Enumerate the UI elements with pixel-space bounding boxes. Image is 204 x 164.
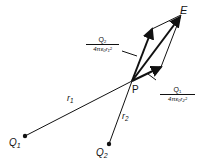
field-diagram [0, 0, 204, 164]
numerator: Q₂ [98, 36, 106, 44]
line-r1 [25, 81, 132, 136]
leader-line-lower [148, 74, 156, 80]
label-p: P [132, 85, 139, 95]
charge-q2-dot [107, 142, 111, 146]
fraction-field-q1: Q₁ 4πε₀r₂² [160, 86, 195, 103]
label-q2: Q2 [96, 148, 108, 159]
denominator: 4πε₀r₁² [93, 45, 111, 53]
fraction-field-q2: Q₂ 4πε₀r₁² [86, 36, 119, 53]
label-q1: Q1 [9, 138, 21, 149]
label-r1: r1 [67, 94, 74, 104]
numerator: Q₁ [174, 86, 182, 94]
denominator: 4πε₀r₂² [168, 95, 187, 103]
label-r2: r2 [122, 112, 129, 122]
line-r2 [109, 81, 132, 144]
charge-q1-dot [23, 134, 27, 138]
label-e: E [180, 5, 187, 16]
leader-line-upper [122, 51, 137, 56]
